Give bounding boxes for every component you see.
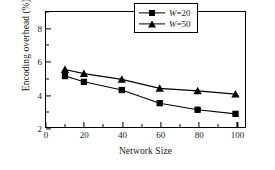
data-point-square bbox=[194, 107, 200, 113]
x-tick-major bbox=[199, 122, 200, 127]
chart-legend: W=20 W=50 bbox=[134, 3, 198, 33]
data-point-square bbox=[62, 73, 68, 79]
series-line-w50 bbox=[65, 70, 236, 95]
encoding-overhead-chart: 2468020406080100 Encoding overhead (%) N… bbox=[0, 0, 275, 170]
legend-item-w50: W=50 bbox=[139, 18, 191, 29]
y-tick-major bbox=[46, 28, 51, 29]
y-tick-label: 6 bbox=[38, 57, 43, 67]
x-tick-major bbox=[45, 122, 46, 127]
data-point-square bbox=[157, 100, 163, 106]
x-tick-major bbox=[237, 122, 238, 127]
x-tick-minor bbox=[180, 124, 181, 127]
legend-label-w50: W=50 bbox=[169, 19, 191, 29]
x-tick-minor bbox=[141, 124, 142, 127]
y-tick-minor bbox=[46, 112, 49, 113]
x-tick-label: 40 bbox=[118, 130, 127, 140]
data-point-triangle bbox=[61, 65, 69, 73]
x-axis-label: Network Size bbox=[45, 146, 246, 156]
x-tick-label: 80 bbox=[195, 130, 204, 140]
y-tick-minor bbox=[46, 12, 49, 13]
series-line-w20 bbox=[65, 76, 236, 114]
y-tick-major bbox=[46, 95, 51, 96]
x-tick-label: 60 bbox=[156, 130, 165, 140]
x-tick-minor bbox=[218, 124, 219, 127]
data-point-square bbox=[81, 79, 87, 85]
y-tick-minor bbox=[46, 45, 49, 46]
y-tick-label: 8 bbox=[38, 24, 43, 34]
x-tick-label: 20 bbox=[80, 130, 89, 140]
x-tick-label: 0 bbox=[44, 130, 49, 140]
x-tick-major bbox=[122, 122, 123, 127]
x-tick-major bbox=[84, 122, 85, 127]
legend-item-w20: W=20 bbox=[139, 7, 191, 18]
legend-marker-square bbox=[139, 7, 165, 18]
y-tick-label: 2 bbox=[38, 124, 43, 134]
x-tick-minor bbox=[65, 124, 66, 127]
y-tick-minor bbox=[46, 78, 49, 79]
x-tick-minor bbox=[103, 124, 104, 127]
y-tick-label: 4 bbox=[38, 91, 43, 101]
x-tick-label: 100 bbox=[231, 130, 245, 140]
x-tick-major bbox=[160, 122, 161, 127]
data-point-square bbox=[232, 111, 238, 117]
legend-marker-triangle bbox=[139, 18, 165, 29]
data-point-square bbox=[119, 87, 125, 93]
y-tick-major bbox=[46, 62, 51, 63]
y-axis-label: Encoding overhead (%) bbox=[21, 0, 31, 115]
legend-label-w20: W=20 bbox=[169, 8, 191, 18]
